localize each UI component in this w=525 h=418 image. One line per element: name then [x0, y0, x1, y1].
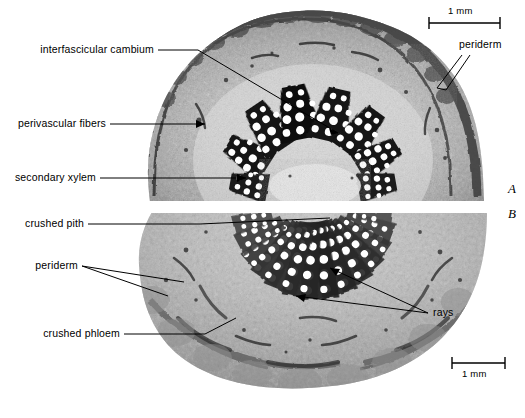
label-interfascicular-cambium: interfascicular cambium: [0, 44, 154, 55]
panel-a-image: [130, 0, 500, 256]
label-rays: rays: [433, 307, 453, 318]
leader-periderm-left-2: [82, 266, 168, 296]
micrograph-svg: [0, 0, 525, 418]
leader-periderm-left-1: [82, 266, 184, 282]
panel-letter-a: A: [508, 182, 516, 195]
vascular-bundles-b: [231, 202, 396, 300]
vascular-bundles-a: [219, 82, 406, 204]
micrograph-image: [0, 0, 525, 418]
leader-crushed-phloem: [124, 318, 236, 334]
label-periderm-left: periderm: [0, 260, 78, 271]
leader-lines: [0, 0, 525, 418]
leader-periderm-right-2: [446, 55, 470, 90]
scale-bar-top-marks: [429, 17, 500, 29]
leader-periderm-right-1: [437, 55, 462, 88]
panel-letter-b: B: [508, 207, 516, 220]
leader-periderm-right-base: [437, 88, 446, 90]
leader-rays-1: [330, 268, 428, 313]
panel-b-image: [130, 202, 500, 400]
label-perivascular-fibers: perivascular fibers: [0, 118, 106, 129]
leader-crushed-pith: [88, 218, 330, 224]
label-crushed-pith: crushed pith: [0, 218, 84, 229]
leader-interfascicular-cambium: [158, 50, 338, 133]
label-secondary-xylem: secondary xylem: [0, 172, 96, 183]
scale-bar-bottom-label: 1 mm: [462, 369, 487, 379]
label-periderm-right: periderm: [459, 39, 502, 50]
label-crushed-phloem: crushed phloem: [0, 328, 120, 339]
figure-root: interfascicular cambium perivascular fib…: [0, 0, 525, 418]
scale-bar-top-label: 1 mm: [448, 6, 473, 16]
leader-rays-2: [296, 296, 428, 313]
